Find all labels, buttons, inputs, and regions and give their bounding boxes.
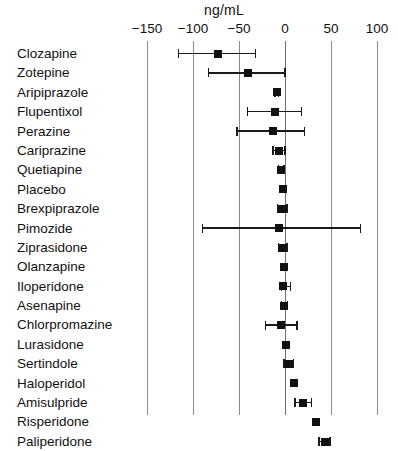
plot-row: Zotepine [0, 63, 398, 82]
category-label: Placebo [17, 181, 66, 198]
plot-row: Risperidone [0, 412, 398, 431]
category-label: Amisulpride [17, 394, 88, 411]
plot-row: Flupentixol [0, 102, 398, 121]
x-tick-label: −100 [178, 21, 208, 36]
category-label: Aripiprazole [17, 84, 88, 101]
plot-row: Clozapine [0, 44, 398, 63]
plot-row: Iloperidone [0, 277, 398, 296]
plot-row: Quetiapine [0, 160, 398, 179]
category-label: Paliperidone [17, 433, 92, 450]
category-label: Brexpiprazole [17, 200, 100, 217]
plot-row: Amisulpride [0, 393, 398, 412]
x-tick-label: −50 [228, 21, 251, 36]
plot-row: Brexpiprazole [0, 199, 398, 218]
x-tick-label: 50 [323, 21, 338, 36]
plot-row: Haloperidol [0, 374, 398, 393]
category-label: Chlorpromazine [17, 316, 112, 333]
unit-header-label: ng/mL [25, 2, 398, 18]
category-label: Ziprasidone [17, 239, 88, 256]
plot-row: Chlorpromazine [0, 315, 398, 334]
category-label: Clozapine [17, 45, 77, 62]
plot-row: Placebo [0, 180, 398, 199]
plot-row: Ziprasidone [0, 238, 398, 257]
category-label: Zotepine [17, 64, 70, 81]
category-label-column: ClozapineZotepineAripiprazoleFlupentixol… [0, 44, 398, 451]
plot-row: Cariprazine [0, 141, 398, 160]
category-label: Cariprazine [17, 142, 86, 159]
plot-row: Lurasidone [0, 335, 398, 354]
category-label: Quetiapine [17, 161, 82, 178]
plot-row: Olanzapine [0, 257, 398, 276]
plot-row: Pimozide [0, 219, 398, 238]
plot-row: Asenapine [0, 296, 398, 315]
category-label: Lurasidone [17, 336, 84, 353]
plot-row: Sertindole [0, 354, 398, 373]
category-label: Haloperidol [17, 375, 85, 392]
category-label: Iloperidone [17, 278, 84, 295]
category-label: Perazine [17, 123, 70, 140]
x-tick-label: −150 [132, 21, 162, 36]
x-axis-ticks: −150−100−50050100 [0, 21, 398, 39]
plot-row: Aripiprazole [0, 83, 398, 102]
category-label: Flupentixol [17, 103, 82, 120]
category-label: Pimozide [17, 220, 73, 237]
plot-row: Perazine [0, 122, 398, 141]
plot-row: Paliperidone [0, 432, 398, 451]
category-label: Risperidone [17, 413, 89, 430]
x-tick-label: 100 [366, 21, 389, 36]
category-label: Asenapine [17, 297, 81, 314]
category-label: Olanzapine [17, 258, 85, 275]
x-tick-label: 0 [281, 21, 289, 36]
category-label: Sertindole [17, 355, 78, 372]
